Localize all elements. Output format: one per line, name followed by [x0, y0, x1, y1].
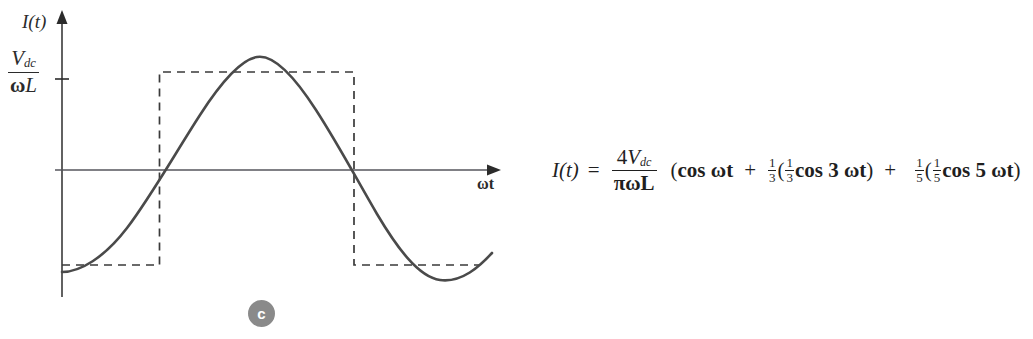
equation-lhs-function: I — [552, 158, 559, 183]
current-waveform-curve — [62, 57, 492, 281]
x-axis-title: ωt — [477, 176, 494, 192]
inner-coefficient-denominator: 5 — [933, 171, 942, 184]
coefficient-denominator: 5 — [915, 171, 924, 184]
term-cos-3wt: cos 3 ωt — [795, 158, 866, 183]
fraction-numerator: Vdc — [8, 47, 39, 73]
prefactor-numerator: 4Vdc — [612, 146, 657, 171]
prefactor-coefficient: 4 — [617, 145, 628, 169]
fraction-denominator: ωL — [8, 73, 39, 97]
y-axis-arrowhead — [57, 10, 68, 24]
inner-close-parenthesis-1: ) — [866, 158, 873, 183]
prefactor-denominator-text: πωL — [614, 171, 655, 195]
coefficient-one-fifth: 1 5 — [915, 156, 924, 184]
coefficient-one-third: 1 3 — [768, 156, 777, 184]
square-wave-dashed — [62, 72, 480, 265]
inner-open-parenthesis-1: ( — [777, 158, 784, 183]
plus-sign-2: + — [884, 158, 896, 183]
inner-open-parenthesis-2: ( — [925, 158, 932, 183]
y-axis — [57, 10, 68, 297]
inductance-symbol: L — [25, 73, 37, 97]
x-axis-arrowhead — [487, 165, 501, 176]
waveform-svg — [0, 0, 520, 339]
plus-sign-1: + — [744, 158, 756, 183]
inner-coefficient-numerator: 1 — [933, 156, 942, 170]
panel-label-badge: c — [248, 300, 275, 327]
vdc-symbol: V — [11, 46, 24, 70]
coefficient-denominator: 3 — [768, 171, 777, 184]
vdc-subscript: dc — [24, 56, 36, 70]
inner-coefficient-one-fifth: 1 5 — [933, 156, 942, 184]
x-axis — [55, 165, 501, 176]
coefficient-numerator: 1 — [768, 156, 777, 170]
coefficient-numerator: 1 — [915, 156, 924, 170]
term-cos-5wt: cos 5 ωt — [942, 158, 1013, 183]
inner-coefficient-denominator: 3 — [785, 171, 794, 184]
inner-coefficient-one-third: 1 3 — [785, 156, 794, 184]
equals-sign: = — [588, 158, 600, 183]
inner-close-parenthesis-2: ) — [1014, 158, 1021, 183]
waveform-figure: I(t) Vdc ωL ωt c — [0, 0, 520, 339]
y-axis-tick-label: Vdc ωL — [8, 47, 39, 97]
vdc-over-wl-fraction: Vdc ωL — [8, 47, 39, 97]
omega-symbol: ω — [10, 73, 25, 97]
fourier-series-equation: I(t) = 4Vdc πωL ( cos ωt + 1 3 ( 1 3 cos… — [552, 138, 1021, 202]
y-axis-title: I(t) — [22, 12, 46, 31]
open-parenthesis: ( — [671, 158, 678, 183]
prefactor-fraction: 4Vdc πωL — [612, 146, 657, 194]
prefactor-vdc-symbol: V — [627, 145, 640, 169]
prefactor-vdc-subscript: dc — [640, 155, 652, 169]
inner-coefficient-numerator: 1 — [785, 156, 794, 170]
figure-page: I(t) Vdc ωL ωt c I(t) = 4Vdc πωL ( cos ω… — [0, 0, 1033, 339]
equation-lhs-argument: (t) — [559, 158, 579, 183]
prefactor-denominator: πωL — [612, 171, 657, 194]
term-cos-wt: cos ωt — [678, 158, 734, 183]
